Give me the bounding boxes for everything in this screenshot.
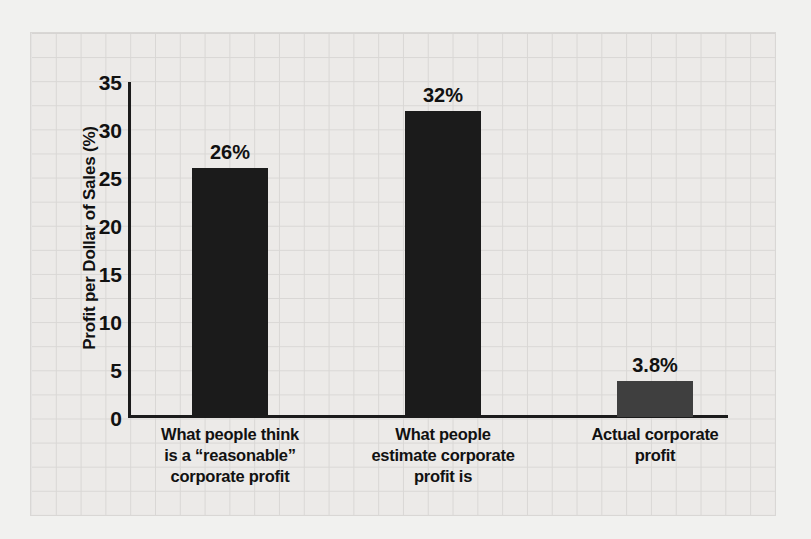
x-label-line: corporate profit <box>128 466 332 487</box>
bar-label-actual-profit: 3.8% <box>612 355 698 375</box>
bar-estimated-profit <box>405 111 481 417</box>
bar-label-reasonable-profit: 26% <box>192 142 268 162</box>
x-label-line: profit is <box>341 466 545 487</box>
bar-chart: Profit per Dollar of Sales (%) 35 30 25 … <box>0 0 811 539</box>
x-label-estimated-profit: What people estimate corporate profit is <box>341 424 545 487</box>
bar-actual-profit <box>617 381 693 417</box>
x-label-line: is a “reasonable” <box>128 445 332 466</box>
x-label-reasonable-profit: What people think is a “reasonable” corp… <box>128 424 332 487</box>
bar-reasonable-profit <box>192 168 268 417</box>
bar-label-estimated-profit: 32% <box>405 85 481 105</box>
x-label-line: What people <box>341 424 545 445</box>
chart-page: Profit per Dollar of Sales (%) 35 30 25 … <box>0 0 811 539</box>
x-label-line: Actual corporate <box>565 424 745 445</box>
x-label-actual-profit: Actual corporate profit <box>565 424 745 466</box>
x-label-line: estimate corporate <box>341 445 545 466</box>
x-label-line: What people think <box>128 424 332 445</box>
x-label-line: profit <box>565 445 745 466</box>
